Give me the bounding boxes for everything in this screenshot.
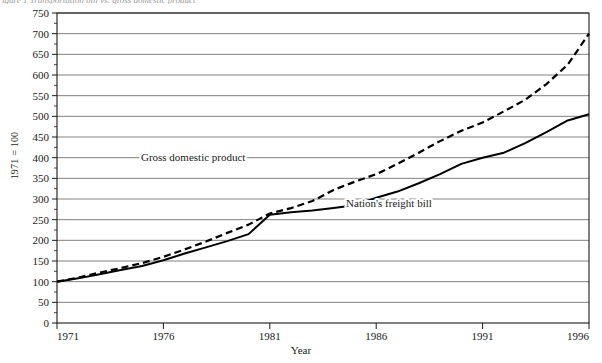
figure-container: igure 1 Transportation bill vs. gross do… [0,0,602,363]
x-tick-label: 1976 [152,330,175,342]
y-tick-label: 50 [38,296,50,308]
plot-frame [57,13,589,323]
y-tick-label: 400 [33,152,50,164]
x-tick-label: 1971 [57,330,79,342]
y-tick-label: 150 [33,255,50,267]
y-axis-ticks: 0501001502002503003504004505005506006507… [33,7,58,329]
series-annotations: Gross domestic productGross domestic pro… [141,151,432,209]
y-tick-label: 0 [44,317,50,329]
plot-border [57,13,589,323]
x-axis-ticks: 197119761981198619911996 [57,323,590,342]
y-tick-label: 250 [33,214,50,226]
y-tick-label: 750 [33,7,50,19]
series-label: Nation's freight bill [346,197,432,209]
y-tick-label: 600 [33,69,50,81]
y-tick-label: 450 [33,131,50,143]
y-tick-label: 300 [33,193,50,205]
y-tick-label: 700 [33,28,50,40]
x-tick-label: 1981 [259,330,281,342]
series-label: Gross domestic product [141,151,245,163]
x-tick-label: 1996 [567,330,590,342]
y-tick-label: 200 [33,234,50,246]
series-line [57,114,589,281]
y-tick-label: 100 [33,276,50,288]
y-tick-label: 550 [33,90,50,102]
line-chart: 0501001502002503003504004505005506006507… [0,0,602,363]
x-tick-label: 1986 [365,330,388,342]
x-tick-label: 1991 [472,330,494,342]
y-tick-label: 500 [33,110,50,122]
y-tick-label: 650 [33,48,50,60]
y-tick-label: 350 [33,172,50,184]
grid-lines [57,13,589,302]
